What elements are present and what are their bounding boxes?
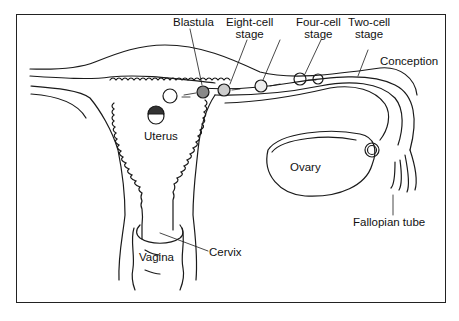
label-conception: Conception (380, 55, 438, 67)
cervix (137, 225, 183, 243)
two-cell-embryo (294, 73, 306, 85)
embryo-stages (148, 73, 323, 124)
fimbriae (391, 150, 416, 192)
label-ovary: Ovary (290, 161, 321, 173)
label-uterus: Uterus (144, 130, 178, 142)
hatching-blastocyst (163, 89, 177, 103)
label-two-cell: Two-cell stage (348, 16, 390, 40)
four-cell-embryo (255, 80, 267, 92)
label-blastula: Blastula (173, 16, 214, 28)
label-four-cell: Four-cell stage (296, 16, 341, 40)
label-cervix: Cervix (209, 246, 242, 258)
eight-cell-embryo (218, 84, 230, 96)
label-fallopian-tube: Fallopian tube (353, 216, 425, 228)
label-vagina: Vagina (139, 251, 174, 263)
reproductive-anatomy-drawing (0, 0, 459, 321)
blastula-cell (197, 86, 209, 98)
label-eight-cell: Eight-cell stage (226, 16, 273, 40)
